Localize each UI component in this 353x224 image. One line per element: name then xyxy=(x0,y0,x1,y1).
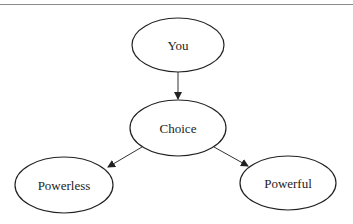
node-you-label: You xyxy=(167,38,189,53)
node-choice: Choice xyxy=(130,100,226,156)
node-you: You xyxy=(132,18,224,72)
flow-diagram: You Choice Powerless Powerful xyxy=(0,0,353,224)
node-powerless: Powerless xyxy=(15,157,113,213)
node-choice-label: Choice xyxy=(160,121,197,136)
edge-choice-powerful xyxy=(214,147,248,166)
node-powerless-label: Powerless xyxy=(38,178,91,193)
node-powerful: Powerful xyxy=(240,156,336,210)
edge-choice-powerless xyxy=(108,147,142,167)
node-powerful-label: Powerful xyxy=(264,176,312,191)
